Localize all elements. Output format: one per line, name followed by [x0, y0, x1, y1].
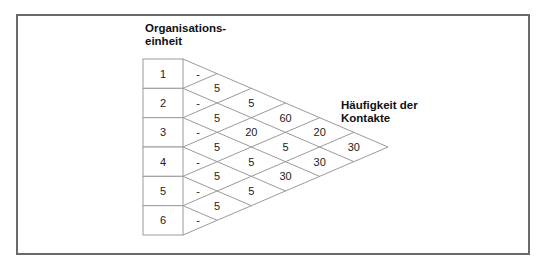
contact-matrix-diagram: 1-2-3-4-5-6-555555205560530203030 — [0, 0, 543, 267]
contact-frequency-value: 5 — [214, 200, 220, 212]
unit-boxes — [143, 59, 183, 235]
self-value: - — [196, 97, 200, 109]
contact-frequency-value: 5 — [214, 82, 220, 94]
grid-line-down — [183, 88, 354, 161]
contact-frequency-value: 5 — [248, 97, 254, 109]
contact-frequency-value: 5 — [248, 185, 254, 197]
grid-line-up — [183, 103, 286, 147]
unit-label: 5 — [160, 185, 166, 197]
grid-line-up — [183, 132, 354, 205]
grid-line-down — [183, 206, 217, 221]
self-value: - — [196, 126, 200, 138]
contact-frequency-value: 60 — [279, 112, 291, 124]
contact-frequency-value: 30 — [314, 156, 326, 168]
unit-label: 2 — [160, 97, 166, 109]
unit-label: 6 — [160, 214, 166, 226]
self-value: - — [196, 214, 200, 226]
contact-frequency-value: 20 — [314, 126, 326, 138]
grid-line-up — [183, 74, 217, 89]
contact-frequency-value: 5 — [248, 156, 254, 168]
contact-frequency-value: 5 — [214, 112, 220, 124]
contact-frequency-value: 30 — [348, 141, 360, 153]
self-value: - — [196, 68, 200, 80]
unit-label: 1 — [160, 68, 166, 80]
contact-frequency-value: 20 — [245, 126, 257, 138]
self-value: - — [196, 156, 200, 168]
unit-label: 3 — [160, 126, 166, 138]
unit-label: 4 — [160, 156, 166, 168]
contact-frequency-value: 30 — [279, 170, 291, 182]
contact-frequency-value: 5 — [214, 170, 220, 182]
self-value: - — [196, 185, 200, 197]
contact-frequency-value: 5 — [282, 141, 288, 153]
contact-frequency-value: 5 — [214, 141, 220, 153]
